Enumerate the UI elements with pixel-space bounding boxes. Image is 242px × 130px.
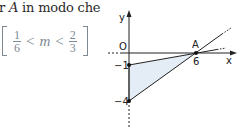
y-axis-arrow-icon — [127, 10, 132, 17]
line-slope-2-3-dashed — [222, 28, 231, 34]
origin-label: O — [119, 41, 127, 52]
tick-y-minus4: −4 — [114, 96, 129, 107]
tick-y-minus1: −1 — [114, 60, 129, 71]
point-A-label: A — [192, 39, 199, 50]
tick-x-6: 6 — [193, 56, 199, 67]
y-axis-label: y — [119, 12, 125, 23]
point-A — [194, 51, 198, 55]
coordinate-graph: y O −1 −4 A 6 x — [0, 0, 242, 130]
x-axis-label: x — [226, 55, 232, 66]
line-slope-1-6-dashed — [217, 48, 226, 50]
